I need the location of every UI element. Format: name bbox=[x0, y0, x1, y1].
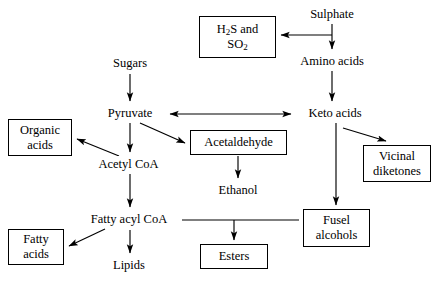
edge-pyruvate-to-acetaldehyde bbox=[140, 123, 185, 143]
edge-keto-acids-to-vicinal-diketones bbox=[343, 128, 386, 141]
node-acetaldehyde: Acetaldehyde bbox=[190, 130, 287, 155]
node-keto-acids: Keto acids bbox=[297, 105, 373, 122]
node-amino-acids: Amino acids bbox=[287, 53, 377, 70]
node-sugars: Sugars bbox=[100, 55, 160, 72]
node-fusel-alcohols: Fusel alcohols bbox=[303, 209, 370, 247]
edge-fatty-acyl-coa-to-fatty-acids bbox=[69, 229, 105, 246]
node-h2s-and-so2: H2S andSO2 bbox=[199, 16, 276, 58]
node-acetyl-coa: Acetyl CoA bbox=[89, 156, 168, 173]
node-esters: Esters bbox=[200, 244, 268, 269]
node-organic-acids: Organic acids bbox=[8, 119, 72, 156]
node-pyruvate: Pyruvate bbox=[97, 105, 163, 122]
node-fatty-acyl-coa: Fatty acyl CoA bbox=[79, 211, 179, 228]
edge-acetyl-coa-to-organic-acids bbox=[77, 139, 119, 156]
node-sulphate: Sulphate bbox=[296, 6, 368, 23]
node-fatty-acids: Fatty acids bbox=[8, 229, 64, 265]
node-lipids: Lipids bbox=[102, 257, 156, 274]
pathway-diagram: Sulphate H2S andSO2 Amino acids Sugars P… bbox=[0, 0, 438, 282]
node-ethanol: Ethanol bbox=[207, 182, 269, 199]
node-h2s-and-so2-label: H2S andSO2 bbox=[217, 22, 259, 52]
node-vicinal-diketones: Vicinal diketones bbox=[363, 145, 431, 182]
